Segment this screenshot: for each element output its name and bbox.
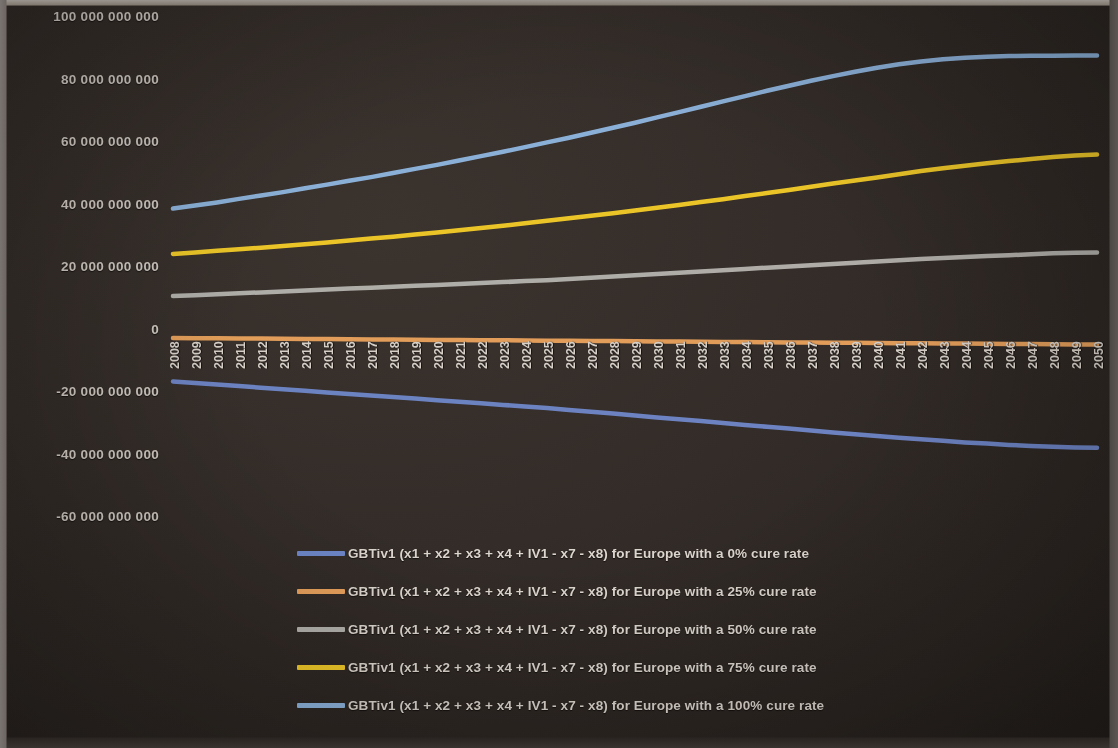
x-axis-tick-label: 2031 [674,341,688,369]
x-axis-tick-label: 2049 [1070,341,1084,369]
photographed-slide: 100 000 000 00080 000 000 00060 000 000 … [0,0,1118,748]
x-axis-tick-label: 2040 [872,341,886,369]
legend-item-label: GBTiv1 (x1 + x2 + x3 + x4 + IV1 - x7 - x… [348,584,817,599]
legend-item: GBTiv1 (x1 + x2 + x3 + x4 + IV1 - x7 - x… [297,648,1057,686]
x-axis-tick-label: 2012 [256,341,270,369]
x-axis-tick-label: 2009 [190,341,204,369]
x-axis-tick-label: 2020 [432,341,446,369]
x-axis-tick-label: 2037 [806,341,820,369]
x-axis-tick-label: 2027 [586,341,600,369]
x-axis-tick-label: 2018 [388,341,402,369]
x-axis-tick-label: 2016 [344,341,358,369]
x-axis-tick-label: 2025 [542,341,556,369]
legend-color-swatch [297,589,345,594]
legend-item-label: GBTiv1 (x1 + x2 + x3 + x4 + IV1 - x7 - x… [348,546,809,561]
legend-item-label: GBTiv1 (x1 + x2 + x3 + x4 + IV1 - x7 - x… [348,660,817,675]
x-axis-tick-label: 2035 [762,341,776,369]
legend-item-label: GBTiv1 (x1 + x2 + x3 + x4 + IV1 - x7 - x… [348,622,817,637]
y-axis-tick-label: 100 000 000 000 [7,9,159,24]
x-axis-tick-label: 2024 [520,341,534,369]
x-axis-tick-label: 2021 [454,341,468,369]
y-axis-tick-label: 0 [7,322,159,337]
legend-item-label: GBTiv1 (x1 + x2 + x3 + x4 + IV1 - x7 - x… [348,698,824,713]
x-axis-tick-label: 2043 [938,341,952,369]
legend-color-swatch [297,665,345,670]
y-axis-tick-label: 60 000 000 000 [7,134,159,149]
x-axis-tick-label: 2013 [278,341,292,369]
chart-legend: GBTiv1 (x1 + x2 + x3 + x4 + IV1 - x7 - x… [297,534,1057,724]
y-axis-tick-label: 80 000 000 000 [7,72,159,87]
x-axis-tick-label: 2028 [608,341,622,369]
y-axis-tick-label: 40 000 000 000 [7,197,159,212]
series-line [173,56,1097,209]
x-axis-tick-label: 2044 [960,341,974,369]
x-axis-tick-label: 2019 [410,341,424,369]
legend-item: GBTiv1 (x1 + x2 + x3 + x4 + IV1 - x7 - x… [297,572,1057,610]
y-axis-tick-label: 20 000 000 000 [7,259,159,274]
x-axis-tick-label: 2010 [212,341,226,369]
x-axis-tick-label: 2033 [718,341,732,369]
x-axis-tick-label: 2036 [784,341,798,369]
x-axis-tick-label: 2048 [1048,341,1062,369]
legend-item: GBTiv1 (x1 + x2 + x3 + x4 + IV1 - x7 - x… [297,686,1057,724]
x-axis-tick-label: 2030 [652,341,666,369]
x-axis-tick-label: 2022 [476,341,490,369]
series-line [173,381,1097,447]
y-axis-tick-label: -20 000 000 000 [7,384,159,399]
x-axis-tick-label: 2017 [366,341,380,369]
x-axis-tick-label: 2046 [1004,341,1018,369]
legend-color-swatch [297,551,345,556]
x-axis-tick-label: 2014 [300,341,314,369]
legend-color-swatch [297,703,345,708]
y-axis-tick-label: -40 000 000 000 [7,447,159,462]
x-axis-tick-label: 2023 [498,341,512,369]
legend-color-swatch [297,627,345,632]
x-axis-tick-label: 2038 [828,341,842,369]
x-axis-tick-label: 2047 [1026,341,1040,369]
chart-slide: 100 000 000 00080 000 000 00060 000 000 … [7,6,1110,740]
legend-item: GBTiv1 (x1 + x2 + x3 + x4 + IV1 - x7 - x… [297,610,1057,648]
x-axis-tick-label: 2008 [168,341,182,369]
x-axis-tick-label: 2041 [894,341,908,369]
y-axis-tick-label: -60 000 000 000 [7,509,159,524]
x-axis-tick-label: 2032 [696,341,710,369]
x-axis-tick-label: 2026 [564,341,578,369]
x-axis-tick-label: 2034 [740,341,754,369]
x-axis-tick-label: 2050 [1092,341,1106,369]
series-line [173,155,1097,254]
x-axis-tick-label: 2015 [322,341,336,369]
series-line [173,252,1097,296]
x-axis-tick-label: 2045 [982,341,996,369]
legend-item: GBTiv1 (x1 + x2 + x3 + x4 + IV1 - x7 - x… [297,534,1057,572]
x-axis-tick-label: 2011 [234,341,248,368]
x-axis-tick-label: 2029 [630,341,644,369]
x-axis-tick-label: 2039 [850,341,864,369]
x-axis-tick-label: 2042 [916,341,930,369]
